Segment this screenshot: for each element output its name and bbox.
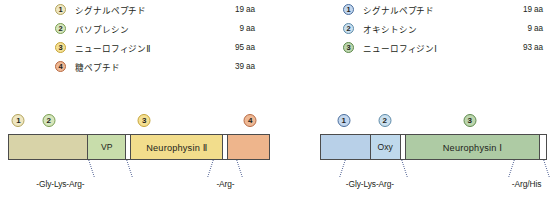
leader-line <box>88 160 95 177</box>
legend-vasopressin-precursor: 1 シグナルペプチド 19 aa 2 バソプレシン 9 aa 3 ニューロフィジ… <box>55 0 255 76</box>
segment-oxytocin: Oxy <box>371 135 401 159</box>
segment-vasopressin: VP <box>88 135 126 159</box>
legend-item-label: 糖ペプチド <box>75 61 217 73</box>
legend-item-length: 39 aa <box>217 62 255 71</box>
bar-badge-2: 2 <box>42 114 55 127</box>
legend-item-length: 95 aa <box>217 43 255 52</box>
cleavage-site-label: -Arg- <box>216 179 234 189</box>
bar-badge-row: 1 2 3 4 <box>8 112 270 134</box>
legend-badge-2: 2 <box>343 23 354 34</box>
legend-badge-3: 3 <box>55 42 66 53</box>
leader-line <box>401 160 408 177</box>
segment-spacer-2 <box>540 135 546 159</box>
legend-item-label: オキシトシン <box>363 23 505 35</box>
legend-badge-4: 4 <box>55 61 66 72</box>
legend-badge-2: 2 <box>55 23 66 34</box>
leader-line <box>236 160 243 177</box>
protein-bar-vasopressin: VP Neurophysin Ⅱ <box>8 134 270 160</box>
bar-badge-3: 3 <box>463 114 476 127</box>
bar-badge-3: 3 <box>138 114 151 127</box>
legend-item-label: ニューロフィジンⅡ <box>75 42 217 54</box>
segment-glycopeptide <box>228 135 269 159</box>
legend-item-length: 19 aa <box>217 5 255 14</box>
legend-badge-1: 1 <box>343 4 354 15</box>
diagram-oxytocin-precursor: 1 2 3 Oxy Neurophysin Ⅰ -Gly-Lys-Arg- -A… <box>320 112 547 202</box>
legend-badge-1: 1 <box>55 4 66 15</box>
legend-item-length: 19 aa <box>505 5 543 14</box>
legend-badge-3: 3 <box>343 42 354 53</box>
legend-item-length: 93 aa <box>505 43 543 52</box>
legend-item: 3 ニューロフィジンⅠ 93 aa <box>343 38 543 57</box>
leader-line <box>508 160 515 177</box>
legend-item: 4 糖ペプチド 39 aa <box>55 57 255 76</box>
legend-item: 1 シグナルペプチド 19 aa <box>343 0 543 19</box>
legend-item: 1 シグナルペプチド 19 aa <box>55 0 255 19</box>
legend-item-length: 9 aa <box>505 24 543 33</box>
legend-item-length: 9 aa <box>217 24 255 33</box>
segment-neurophysin-2: Neurophysin Ⅱ <box>131 135 223 159</box>
protein-bar-oxytocin: Oxy Neurophysin Ⅰ <box>320 134 547 160</box>
cleavage-site-label: -Gly-Lys-Arg- <box>346 179 394 189</box>
cleavage-site-label: -Gly-Lys-Arg- <box>36 179 84 189</box>
bar-badge-4: 4 <box>244 114 257 127</box>
legend-item-label: シグナルペプチド <box>363 4 505 16</box>
leader-line <box>339 160 346 177</box>
bar-badge-1: 1 <box>12 114 25 127</box>
legend-item-label: ニューロフィジンⅠ <box>363 42 505 54</box>
diagram-vasopressin-precursor: 1 2 3 4 VP Neurophysin Ⅱ -Gly-Lys-Arg- -… <box>8 112 270 202</box>
bar-badge-1: 1 <box>337 114 350 127</box>
legend-item-label: バソプレシン <box>75 23 217 35</box>
cleavage-site-annotations: -Gly-Lys-Arg- -Arg/His <box>320 160 547 202</box>
leader-line <box>126 160 133 177</box>
legend-item: 2 バソプレシン 9 aa <box>55 19 255 38</box>
segment-signal-peptide <box>9 135 88 159</box>
legend-item-label: シグナルペプチド <box>75 4 217 16</box>
leader-line <box>543 160 550 177</box>
segment-neurophysin-1: Neurophysin Ⅰ <box>406 135 540 159</box>
leader-line <box>207 160 214 177</box>
cleavage-site-annotations: -Gly-Lys-Arg- -Arg- <box>8 160 270 202</box>
segment-signal-peptide <box>321 135 371 159</box>
legend-oxytocin-precursor: 1 シグナルペプチド 19 aa 2 オキシトシン 9 aa 3 ニューロフィジ… <box>343 0 543 57</box>
bar-badge-row: 1 2 3 <box>320 112 547 134</box>
bar-badge-2: 2 <box>378 114 391 127</box>
cleavage-site-label: -Arg/His <box>512 179 541 189</box>
legend-item: 3 ニューロフィジンⅡ 95 aa <box>55 38 255 57</box>
legend-item: 2 オキシトシン 9 aa <box>343 19 543 38</box>
